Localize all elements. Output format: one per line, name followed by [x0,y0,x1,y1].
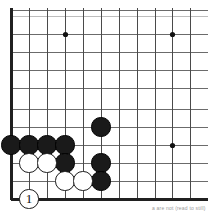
black-stone-a1[interactable] [1,135,20,154]
white-stone-move-1[interactable]: 1 [19,189,38,208]
black-stone-f0[interactable] [91,117,110,136]
go-board-diagram: 1 a are not (read to still) [0,0,208,215]
black-stone-f2[interactable] [91,153,110,172]
white-stone-b2[interactable] [19,153,38,172]
white-stone-move-1-move-number: 1 [20,190,37,207]
black-stone-d2[interactable] [55,153,74,172]
star-point-upper-right [170,32,175,37]
star-point-lower-right [170,143,175,148]
white-stone-d3[interactable] [55,171,74,190]
black-stone-c1[interactable] [37,135,56,154]
black-stone-f3[interactable] [91,171,110,190]
star-point-upper-left [63,32,68,37]
diagram-caption: a are not (read to still) [152,205,206,212]
black-stone-b1[interactable] [19,135,38,154]
white-stone-e3[interactable] [73,171,92,190]
white-stone-c2[interactable] [37,153,56,172]
black-stone-d1[interactable] [55,135,74,154]
